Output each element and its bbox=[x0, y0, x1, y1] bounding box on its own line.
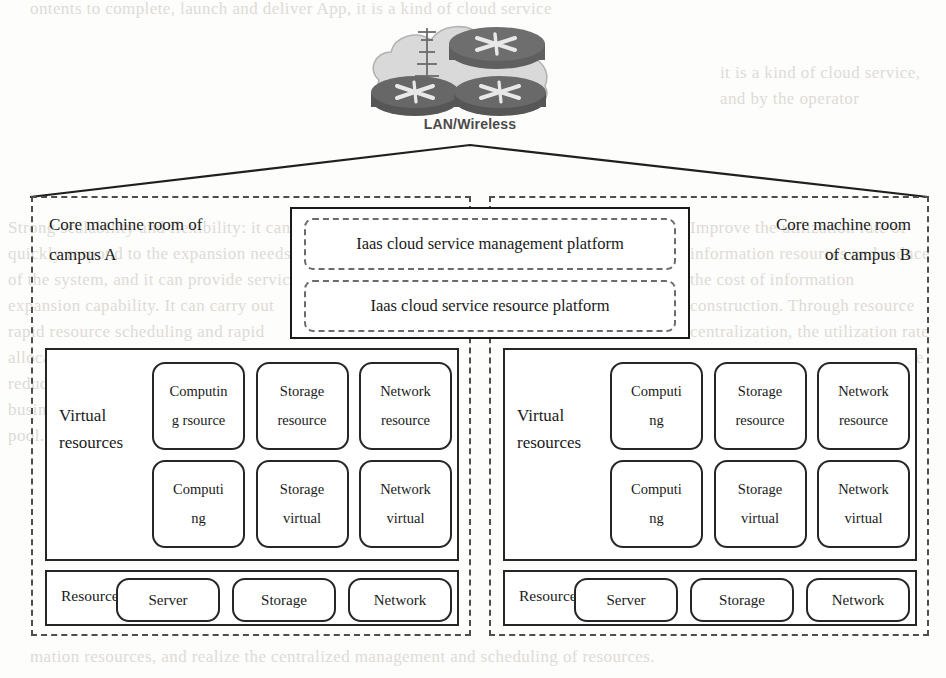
box-line-2: virtual bbox=[741, 504, 779, 533]
box-line-2: resource bbox=[277, 406, 326, 435]
campus-a-storage-box[interactable]: Storage bbox=[232, 578, 336, 622]
box-line-2: resource bbox=[735, 406, 784, 435]
campus-b-storage-virtual-box[interactable]: Storage virtual bbox=[714, 460, 807, 548]
campus-b-title-line-2: of campus B bbox=[681, 240, 911, 270]
box-line-1: Computi bbox=[173, 475, 224, 504]
box-line-2: ng bbox=[191, 504, 206, 533]
campus-a-virtual-resources-block: Virtual resources Computin g rsource Sto… bbox=[45, 348, 459, 561]
box-line-1: Storage bbox=[280, 377, 324, 406]
background-bleed-text-bottom: mation resources, and realize the centra… bbox=[30, 644, 655, 670]
campus-a-physical-resource-block: Resource Server Storage Network bbox=[45, 570, 459, 626]
campus-a-virtual-row-2: Computi ng Storage virtual Network virtu… bbox=[152, 460, 452, 548]
campus-b-network-box[interactable]: Network bbox=[806, 578, 910, 622]
box-line-1: Network bbox=[380, 475, 431, 504]
campus-a-network-virtual-box[interactable]: Network virtual bbox=[359, 460, 452, 548]
cloud-label: LAN/Wireless bbox=[345, 116, 595, 132]
campus-b-storage-resource-box[interactable]: Storage resource bbox=[714, 362, 807, 450]
vr-label-line-1: Virtual bbox=[59, 402, 155, 429]
campus-b-computing-resource-box[interactable]: Computi ng bbox=[610, 362, 703, 450]
campus-b-virtual-row-1: Computi ng Storage resource Network reso… bbox=[610, 362, 910, 450]
campus-a-virtual-resources-label: Virtual resources bbox=[59, 402, 155, 456]
campus-a-storage-virtual-box[interactable]: Storage virtual bbox=[256, 460, 349, 548]
box-line-2: virtual bbox=[283, 504, 321, 533]
campus-b-storage-box[interactable]: Storage bbox=[690, 578, 794, 622]
campus-b-computing-virtual-box[interactable]: Computi ng bbox=[610, 460, 703, 548]
campus-b-physical-resource-block: Resource Server Storage Network bbox=[503, 570, 917, 626]
box-line-1: Computin bbox=[169, 377, 227, 406]
iaas-management-platform[interactable]: Iaas cloud service management platform bbox=[304, 218, 676, 270]
campus-a-title-line-1: Core machine room of bbox=[49, 210, 279, 240]
box-line-1: Storage bbox=[280, 475, 324, 504]
campus-a-resource-items: Server Storage Network bbox=[116, 578, 452, 622]
iaas-resource-platform[interactable]: Iaas cloud service resource platform bbox=[304, 280, 676, 332]
box-line-2: g rsource bbox=[172, 406, 226, 435]
campus-b-network-virtual-box[interactable]: Network virtual bbox=[817, 460, 910, 548]
vr-label-line-1: Virtual bbox=[517, 402, 613, 429]
campus-a-network-box[interactable]: Network bbox=[348, 578, 452, 622]
box-line-1: Storage bbox=[738, 377, 782, 406]
box-line-1: Computi bbox=[631, 377, 682, 406]
box-line-2: resource bbox=[381, 406, 430, 435]
campus-b-title-line-1: Core machine room bbox=[681, 210, 911, 240]
campus-a-computing-virtual-box[interactable]: Computi ng bbox=[152, 460, 245, 548]
campus-a-server-box[interactable]: Server bbox=[116, 578, 220, 622]
campus-a-computing-resource-box[interactable]: Computin g rsource bbox=[152, 362, 245, 450]
iaas-platform-box: Iaas cloud service management platform I… bbox=[290, 207, 690, 339]
campus-b-resource-label: Resource bbox=[519, 587, 577, 605]
campus-a-title: Core machine room of campus A bbox=[49, 210, 279, 270]
box-line-2: virtual bbox=[845, 504, 883, 533]
box-line-1: Computi bbox=[631, 475, 682, 504]
box-line-2: ng bbox=[649, 504, 664, 533]
campus-b-virtual-resources-label: Virtual resources bbox=[517, 402, 613, 456]
campus-a-network-resource-box[interactable]: Network resource bbox=[359, 362, 452, 450]
box-line-1: Storage bbox=[738, 475, 782, 504]
campus-b-virtual-row-2: Computi ng Storage virtual Network virtu… bbox=[610, 460, 910, 548]
vr-label-line-2: resources bbox=[59, 429, 155, 456]
campus-b-virtual-resources-block: Virtual resources Computi ng Storage res… bbox=[503, 348, 917, 561]
box-line-1: Network bbox=[838, 475, 889, 504]
campus-a-title-line-2: campus A bbox=[49, 240, 279, 270]
background-bleed-text-middle: it is a kind of cloud service, and by th… bbox=[720, 60, 940, 112]
campus-a-storage-resource-box[interactable]: Storage resource bbox=[256, 362, 349, 450]
campus-b-title: Core machine room of campus B bbox=[681, 210, 911, 270]
campus-b-server-box[interactable]: Server bbox=[574, 578, 678, 622]
campus-b-network-resource-box[interactable]: Network resource bbox=[817, 362, 910, 450]
campus-a-virtual-row-1: Computin g rsource Storage resource Netw… bbox=[152, 362, 452, 450]
box-line-2: ng bbox=[649, 406, 664, 435]
vr-label-line-2: resources bbox=[517, 429, 613, 456]
box-line-1: Network bbox=[838, 377, 889, 406]
campus-b-resource-items: Server Storage Network bbox=[574, 578, 910, 622]
campus-a-resource-label: Resource bbox=[61, 587, 119, 605]
box-line-2: virtual bbox=[387, 504, 425, 533]
box-line-1: Network bbox=[380, 377, 431, 406]
box-line-2: resource bbox=[839, 406, 888, 435]
